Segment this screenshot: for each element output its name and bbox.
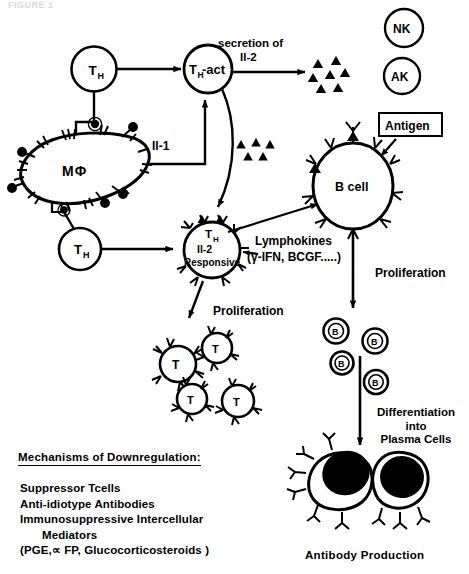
differentiation-line2: into [377, 420, 455, 434]
svg-text:B: B [372, 378, 379, 388]
downregulation-item: Immunosuppressive Intercellular [20, 512, 209, 528]
proliferation-left-label: Proliferation [213, 304, 284, 318]
b-cell-clone: B [363, 329, 388, 354]
helper-t-cell-top: T H [72, 47, 117, 92]
t-cell-clone: T [171, 377, 214, 422]
th-top-label: T [89, 63, 98, 78]
antibody-glyphs [372, 507, 430, 529]
responsive-label-line1: T [205, 228, 212, 240]
svg-text:B: B [338, 359, 345, 369]
downregulation-item: Suppressor Tcells [20, 481, 209, 497]
il2-molecules-lower [236, 138, 275, 160]
antigen-box: Antigen [379, 113, 442, 156]
macrophage-cell: MΦ [8, 123, 152, 212]
helper-t-cell-bottom: T H [52, 203, 101, 270]
responsive-label-line3: Responsive [184, 257, 241, 268]
b-cell-label: B cell [335, 180, 368, 194]
arrow-antigen-to-bcell [381, 139, 396, 156]
thact-label: T [189, 62, 197, 77]
differentiation-line1: Differentiation [377, 406, 455, 420]
b-cell-clone-group: B B B B [324, 319, 389, 395]
immunology-diagram: FIGURE 1 T H T H [0, 0, 469, 574]
th-bottom-subscript: H [83, 250, 90, 260]
svg-text:T: T [172, 358, 180, 372]
differentiation-line3: Plasma Cells [377, 433, 455, 447]
th-top-subscript: H [98, 71, 105, 81]
secretion-label-line1: secretion of [218, 37, 283, 49]
il2-responsive-t-cell: T H Il-2 Responsive [177, 215, 249, 286]
responsive-label-line2: Il-2 [197, 243, 212, 255]
arrow-thact-to-responsive [218, 89, 233, 207]
secretion-label-line2: Il-2 [240, 51, 257, 63]
antibody-production-label: Antibody Production [305, 549, 424, 561]
ak-cell: AK [384, 58, 420, 94]
downregulation-item: Mediators [20, 528, 209, 544]
th-bottom-label: T [74, 242, 82, 257]
nk-label: NK [393, 22, 411, 36]
antigen-label: Antigen [385, 119, 430, 133]
plasma-cell-left [287, 433, 376, 529]
il2-molecules-upper [308, 56, 350, 93]
proliferation-right-label: Proliferation [375, 266, 446, 280]
svg-text:T: T [187, 394, 194, 406]
activated-helper-t-cell: T H -act [184, 45, 232, 93]
cut-off-figure-caption: FIGURE 1 [8, 0, 198, 9]
plasma-cell-right [372, 452, 430, 529]
t-cell-clone: T [152, 338, 204, 391]
downregulation-item: Anti-idiotype Antibodies [20, 497, 209, 513]
svg-text:T: T [212, 343, 219, 355]
ak-label: AK [391, 70, 409, 84]
nk-cell: NK [385, 9, 423, 47]
t-cell-clone: T [215, 378, 262, 425]
t-cell-clone-group: T T [152, 326, 262, 425]
thact-suffix: -act [202, 62, 226, 77]
downregulation-list: Suppressor Tcells Anti-idiotype Antibodi… [20, 481, 209, 559]
macrophage-label: MΦ [62, 163, 87, 179]
svg-text:B: B [332, 327, 339, 337]
b-cell-clone: B [324, 319, 349, 344]
responsive-subscript: H [213, 235, 219, 244]
lymphokines-label-line2: (γ-IFN, BCGF.....) [247, 250, 341, 264]
t-cell-clone: T [196, 326, 239, 371]
b-cell: B cell [302, 122, 403, 239]
downregulation-item: (PGE,∝ FP, Glucocorticosteroids ) [20, 543, 209, 559]
differentiation-label: Differentiation into Plasma Cells [377, 406, 455, 447]
downregulation-title: Mechanisms of Downregulation: [18, 451, 201, 466]
b-cell-clone: B [364, 370, 388, 394]
svg-text:B: B [371, 337, 378, 347]
b-cell-clone: B [331, 352, 354, 375]
il1-label: Il-1 [152, 139, 170, 153]
arrow-lymphokines-to-bcell [228, 204, 318, 232]
lymphokines-label-line1: Lymphokines [255, 234, 332, 248]
th-macrophage-contact [76, 92, 102, 136]
arrow-t-proliferation [189, 281, 203, 318]
svg-text:T: T [233, 396, 240, 408]
il1-signal: Il-1 [146, 100, 205, 164]
